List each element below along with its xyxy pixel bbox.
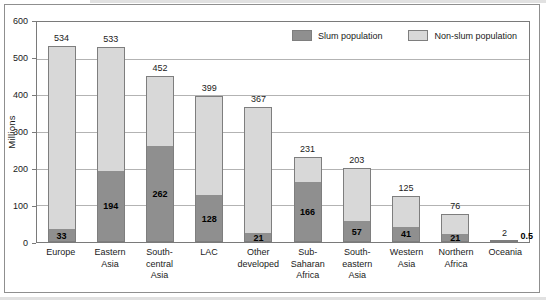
legend-item-slum: Slum population (292, 30, 383, 41)
bar (490, 240, 518, 242)
y-tick-label: 200 (13, 164, 28, 174)
x-axis-category-label: Oceania (481, 247, 530, 282)
legend-swatch-nonslum (408, 30, 428, 41)
bar-segment-nonslum (295, 158, 321, 181)
bar-segment-nonslum (49, 47, 75, 229)
y-axis: 0100200300400500600 (0, 21, 36, 243)
legend-label-nonslum: Non-slum population (434, 31, 517, 41)
bar (97, 47, 125, 242)
bar (244, 107, 272, 242)
figure: Millions 0100200300400500600 53433533194… (0, 0, 546, 301)
bar-slot: 20357 (332, 22, 381, 242)
bar-segment-nonslum (98, 48, 124, 171)
bar (146, 76, 174, 242)
bar-segment-nonslum (196, 97, 222, 195)
bar-segment-nonslum (245, 108, 271, 233)
legend-swatch-slum (292, 30, 312, 41)
bar-segment-nonslum (147, 77, 173, 146)
bar-segment-nonslum (393, 197, 419, 226)
bars: 5343353319445226239912836721231166203571… (37, 22, 529, 242)
y-tick-label: 500 (13, 53, 28, 63)
x-axis-labels: EuropeEastern AsiaSouth- central AsiaLAC… (36, 247, 530, 282)
x-axis-category-label: South- central Asia (135, 247, 184, 282)
x-axis-category-label: Other developed (234, 247, 283, 282)
legend-item-nonslum: Non-slum population (408, 30, 517, 41)
x-axis-category-label: Northern Africa (431, 247, 480, 282)
bar-slot: 7621 (431, 22, 480, 242)
scan-artifact-bottom (0, 297, 546, 300)
x-axis-category-label: South-eastern Asia (332, 247, 381, 282)
plot-area: 5343353319445226239912836721231166203571… (36, 21, 530, 243)
scan-artifact-top (90, 0, 546, 3)
bar-segment-nonslum (442, 215, 468, 234)
y-tick-label: 600 (13, 16, 28, 26)
x-axis-category-label: Europe (36, 247, 85, 282)
y-tick-label: 400 (13, 90, 28, 100)
x-axis-category-label: Western Asia (382, 247, 431, 282)
bar-slot: 452262 (135, 22, 184, 242)
bar-slum-value-label: 0.5 (520, 232, 533, 241)
bar (294, 157, 322, 242)
legend: Slum population Non-slum population (292, 30, 517, 41)
bar-segment-nonslum (344, 169, 370, 221)
bar-slot: 231166 (283, 22, 332, 242)
bar-slot: 20.5 (480, 22, 529, 242)
y-tick-label: 100 (13, 201, 28, 211)
bar (48, 46, 76, 242)
y-tick-mark (32, 243, 36, 244)
x-axis-category-label: LAC (184, 247, 233, 282)
x-axis-category-label: Sub- Saharan Africa (283, 247, 332, 282)
y-tick-label: 300 (13, 127, 28, 137)
bar-slot: 399128 (185, 22, 234, 242)
x-axis-category-label: Eastern Asia (85, 247, 134, 282)
bar-slot: 533194 (86, 22, 135, 242)
legend-label-slum: Slum population (318, 31, 383, 41)
